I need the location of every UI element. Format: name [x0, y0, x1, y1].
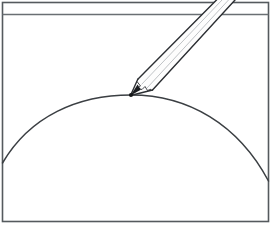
tangent-contact-point	[129, 93, 133, 97]
canvas-background	[0, 0, 271, 226]
figure-canvas	[0, 0, 271, 226]
figure-panel: Line drawing: a rectangular frame with a…	[0, 0, 271, 226]
